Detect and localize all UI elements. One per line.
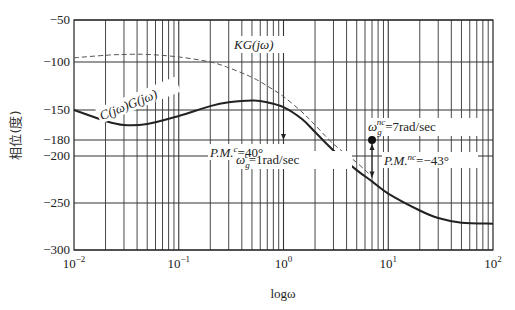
bode-phase-chart: −50−100−150−180−200−250−300 10−210−11001… — [0, 0, 515, 310]
x-axis-label: logω — [270, 286, 296, 301]
arrow-head-down — [370, 172, 375, 178]
pm-uncompensated-label: P.M.nc=−43° — [383, 152, 449, 168]
y-tick-label: −150 — [43, 102, 70, 117]
cg-curve-label: C(jω)G(jω) — [97, 86, 159, 123]
x-tick-label: 10−2 — [63, 254, 86, 271]
y-tick-label: −50 — [50, 12, 70, 27]
x-tick-label: 100 — [275, 254, 293, 271]
y-tick-label: −200 — [43, 148, 70, 163]
x-tick-label: 10−1 — [167, 254, 190, 271]
crossover-point-dot — [368, 136, 376, 144]
y-tick-labels: −50−100−150−180−200−250−300 — [43, 12, 70, 257]
y-tick-label: −180 — [43, 132, 70, 147]
y-tick-label: −250 — [43, 195, 70, 210]
arrow-head-up — [370, 144, 375, 150]
y-axis-label: 相位(度) — [8, 110, 23, 159]
y-tick-label: −300 — [43, 242, 70, 257]
pm-compensated-arrow-head — [281, 134, 286, 140]
x-tick-label: 102 — [484, 254, 502, 271]
x-tick-label: 101 — [380, 254, 398, 271]
y-tick-label: −100 — [43, 54, 70, 69]
cg-curve-label-group: C(jω)G(jω) — [95, 77, 181, 124]
x-tick-labels: 10−210−1100101102 — [63, 254, 502, 271]
kg-curve-label: KG(jω) — [233, 37, 274, 52]
